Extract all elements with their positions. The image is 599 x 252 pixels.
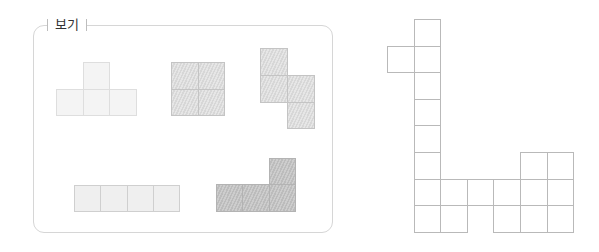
o-tetromino-cell [198, 62, 226, 90]
net-cell [547, 205, 575, 233]
l-tetromino-cell [269, 184, 296, 211]
l-tetromino-cell [216, 184, 243, 211]
net-cell [387, 46, 415, 74]
t-tetromino-cell [109, 89, 137, 117]
s-tetromino-cell [260, 48, 288, 76]
o-tetromino-cell [198, 89, 226, 117]
o-tetromino-cell [171, 62, 199, 90]
net-cell [493, 205, 521, 233]
i-tetromino-cell [153, 185, 180, 212]
i-tetromino-cell [127, 185, 154, 212]
net-cell [547, 152, 575, 180]
net-cell [440, 179, 468, 207]
example-legend: 보기 [47, 16, 87, 34]
net-cell [414, 179, 442, 207]
i-tetromino-cell [100, 185, 127, 212]
o-tetromino-cell [171, 89, 199, 117]
t-tetromino-cell [56, 89, 84, 117]
s-tetromino-cell [287, 102, 315, 130]
t-tetromino-cell [83, 62, 111, 90]
net-cell [414, 152, 442, 180]
i-tetromino-cell [74, 185, 101, 212]
s-tetromino-cell [287, 75, 315, 103]
net-cell [414, 99, 442, 127]
l-tetromino-cell [269, 158, 296, 185]
s-tetromino-cell [260, 75, 288, 103]
l-tetromino-cell [242, 184, 269, 211]
t-tetromino-cell [83, 89, 111, 117]
net-cell [547, 179, 575, 207]
example-legend-label: 보기 [55, 16, 79, 34]
net-cell [493, 179, 521, 207]
net-cell [520, 179, 548, 207]
net-cell [414, 125, 442, 153]
net-cell [414, 46, 442, 74]
net-cell [414, 19, 442, 47]
net-cell [414, 72, 442, 100]
net-cell [520, 152, 548, 180]
net-cell [440, 205, 468, 233]
net-cell [414, 205, 442, 233]
net-cell [520, 205, 548, 233]
net-cell [467, 179, 495, 207]
